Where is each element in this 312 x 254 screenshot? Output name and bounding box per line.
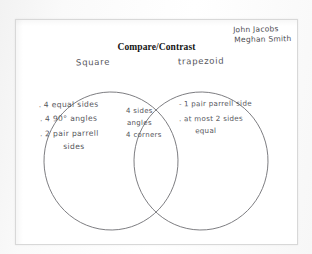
list-item: 4 corners (126, 129, 162, 141)
venn-overlap-list: 4 sides angles 4 corners (126, 105, 162, 141)
list-item: .2 pair parrellsides (40, 127, 99, 154)
list-item: 4 sides (126, 105, 162, 117)
venn-left-only-list: .4 equal sides .4 90° angles .2 pair par… (39, 98, 99, 154)
worksheet-screenshot: John Jacobs Meghan Smith Compare/Contras… (0, 0, 312, 254)
list-item: angles (127, 117, 162, 129)
worksheet-paper: John Jacobs Meghan Smith Compare/Contras… (15, 19, 298, 245)
list-item-text: 4 90° angles (45, 113, 97, 123)
list-item-text: 4 equal sides (44, 100, 99, 110)
list-item: .at most 2 sidesequal (179, 112, 252, 138)
list-item-text: at most 2 sides (184, 114, 243, 124)
list-item-continuation: equal (195, 124, 252, 137)
list-item: .4 equal sides (39, 98, 99, 112)
list-item-text: 2 pair parrell (45, 129, 99, 139)
venn-right-only-list: -1 pair parrell side .at most 2 sidesequ… (179, 97, 252, 138)
list-item-text: 1 pair parrell side (184, 99, 252, 109)
list-item: .4 90° angles (40, 111, 99, 125)
list-item: -1 pair parrell side (179, 97, 252, 111)
list-item-continuation: sides (63, 139, 99, 153)
